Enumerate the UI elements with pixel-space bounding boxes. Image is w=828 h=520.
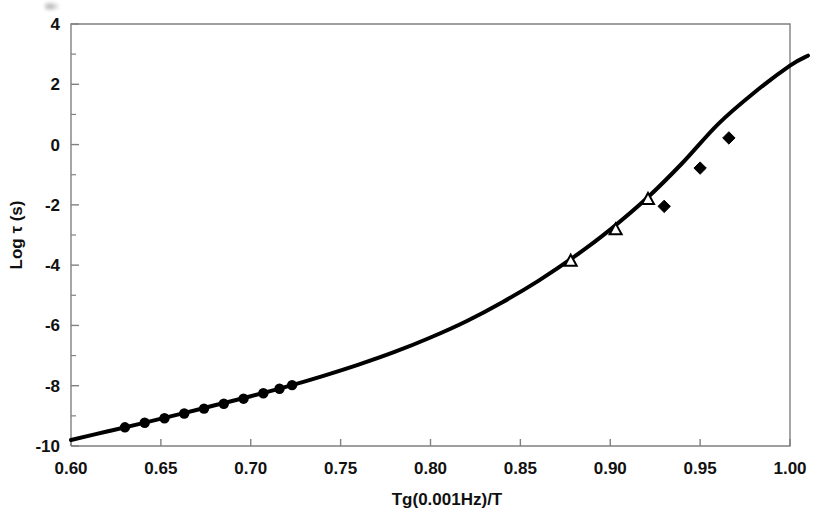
x-tick-label: 0.60 [54, 459, 87, 478]
x-tick-label: 0.90 [594, 459, 627, 478]
x-tick-label: 1.00 [773, 459, 806, 478]
marker-diamond-filled [723, 132, 735, 144]
marker-circle-filled [140, 418, 150, 428]
y-tick-label: 4 [51, 15, 61, 34]
fit-curve-path [71, 56, 808, 440]
marker-circle-filled [258, 388, 268, 398]
marker-circle-filled [274, 384, 284, 394]
y-tick-label: -2 [45, 196, 60, 215]
series-data-markers [120, 132, 735, 433]
y-tick-label: -8 [45, 377, 60, 396]
axes-frame [71, 24, 790, 446]
plot-border [71, 24, 790, 446]
x-tick-label: 0.80 [414, 459, 447, 478]
y-tick-label: -10 [35, 437, 60, 456]
scatter-plot-svg: 0.600.650.700.750.800.850.900.951.00 -10… [0, 0, 828, 520]
y-tick-label: 2 [51, 75, 60, 94]
marker-circle-filled [219, 399, 229, 409]
marker-circle-filled [179, 408, 189, 418]
marker-circle-filled [238, 393, 248, 403]
marker-circle-filled [287, 380, 297, 390]
y-tick-label: 0 [51, 136, 60, 155]
x-tick-label: 0.75 [324, 459, 357, 478]
x-tick-label: 0.95 [684, 459, 717, 478]
marker-circle-filled [159, 413, 169, 423]
y-axis-title: Log τ (s) [7, 201, 26, 270]
x-tick-label: 0.85 [504, 459, 537, 478]
marker-diamond-filled [694, 162, 706, 174]
chart-figure: 0.600.650.700.750.800.850.900.951.00 -10… [0, 0, 828, 520]
x-tick-label: 0.65 [144, 459, 177, 478]
marker-circle-filled [199, 403, 209, 413]
marker-diamond-filled [658, 200, 670, 212]
y-axis-ticks [71, 24, 79, 446]
y-tick-label: -4 [45, 256, 61, 275]
marker-circle-filled [120, 422, 130, 432]
series-fit-curve [71, 56, 808, 440]
scan-artifact [44, 1, 60, 11]
x-axis-title: Tg(0.001Hz)/T [392, 490, 503, 509]
x-axis-ticks [71, 439, 790, 446]
y-axis-tick-labels: -10-8-6-4-2024 [35, 15, 60, 456]
x-tick-label: 0.70 [234, 459, 267, 478]
y-tick-label: -6 [45, 316, 60, 335]
x-axis-tick-labels: 0.600.650.700.750.800.850.900.951.00 [54, 459, 806, 478]
